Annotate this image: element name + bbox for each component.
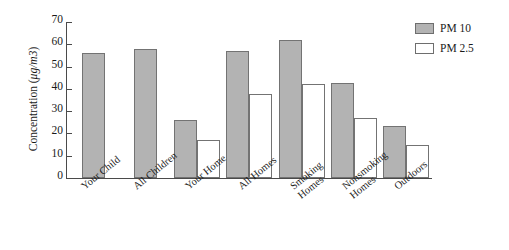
y-axis-tick: 0 [26, 178, 72, 179]
legend-item[interactable]: PM 10 [415, 18, 474, 38]
bar-pm10[interactable] [279, 40, 302, 178]
bar-chart-figure: Concentration (μg/m3) 706050403020100 Yo… [0, 0, 509, 250]
legend-label: PM 10 [440, 22, 471, 34]
bar-group [67, 22, 119, 178]
y-axis-tick-label: 50 [52, 59, 64, 71]
y-axis-tick: 40 [26, 89, 72, 90]
y-axis-title-prefix: Concentration ( [27, 79, 39, 151]
y-axis-tick: 30 [26, 111, 72, 112]
bar-pm10[interactable] [331, 83, 354, 178]
y-axis-tick: 20 [26, 133, 72, 134]
y-axis-tick-label: 10 [52, 148, 64, 160]
y-axis-tick: 10 [26, 156, 72, 157]
y-axis-tick-label: 0 [57, 170, 63, 182]
legend-label: PM 2.5 [440, 42, 474, 54]
y-axis-title-suffix: ) [27, 47, 39, 51]
y-axis-tick-label: 40 [52, 81, 64, 93]
y-axis-tick: 60 [26, 44, 72, 45]
bar-group [276, 22, 328, 178]
bar-pm10[interactable] [82, 53, 105, 178]
bar-pm10[interactable] [226, 51, 249, 178]
y-axis-tick-mark [67, 178, 72, 179]
legend-swatch-pm10 [415, 23, 434, 34]
bar-group [171, 22, 223, 178]
y-axis-tick-label: 30 [52, 103, 64, 115]
legend-swatch-pm25 [415, 43, 434, 54]
y-axis-tick: 70 [26, 22, 72, 23]
y-axis-tick-label: 70 [52, 14, 64, 26]
bar-group [119, 22, 171, 178]
bar-group [328, 22, 380, 178]
y-axis-tick: 50 [26, 67, 72, 68]
chart-legend: PM 10PM 2.5 [415, 18, 474, 58]
y-axis-tick-label: 20 [52, 125, 64, 137]
bar-group [223, 22, 275, 178]
y-axis-title-unit: μg/m3 [27, 51, 39, 80]
legend-item[interactable]: PM 2.5 [415, 38, 474, 58]
bar-pm10[interactable] [134, 49, 157, 178]
y-axis-tick-label: 60 [52, 36, 64, 48]
bar-pm10[interactable] [174, 120, 197, 178]
